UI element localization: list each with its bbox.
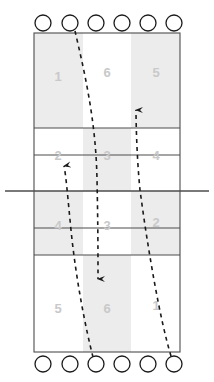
zone-label: 5 [54, 301, 61, 316]
zone-label: 3 [103, 148, 110, 163]
zone-label: 2 [152, 215, 159, 230]
player-circle[interactable] [166, 356, 182, 372]
player-circle[interactable] [114, 356, 130, 372]
player-circle[interactable] [166, 15, 182, 31]
volleyball-rotation-diagram: 1 6 5 2 3 4 4 3 2 5 6 1 [0, 0, 214, 382]
zone-label: 6 [103, 301, 110, 316]
zone-label: 6 [103, 65, 110, 80]
bottom-player-row [35, 356, 182, 372]
court-svg: 1 6 5 2 3 4 4 3 2 5 6 1 [0, 0, 214, 382]
player-circle[interactable] [140, 356, 156, 372]
player-circle[interactable] [35, 356, 51, 372]
player-circle[interactable] [62, 15, 78, 31]
player-circle[interactable] [114, 15, 130, 31]
player-circle[interactable] [88, 356, 104, 372]
zone-label: 3 [103, 218, 110, 233]
zone-label: 2 [54, 148, 61, 163]
top-player-row [35, 15, 182, 31]
player-circle[interactable] [62, 356, 78, 372]
zone-label: 4 [54, 218, 62, 233]
player-circle[interactable] [35, 15, 51, 31]
zone-label: 1 [54, 69, 61, 84]
zone-label: 5 [152, 65, 159, 80]
player-circle[interactable] [88, 15, 104, 31]
player-circle[interactable] [140, 15, 156, 31]
zone-label: 4 [152, 148, 160, 163]
